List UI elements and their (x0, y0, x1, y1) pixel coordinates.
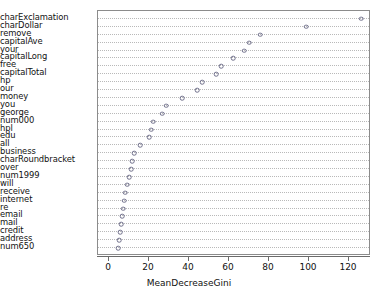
gridline-row (98, 192, 369, 193)
data-point (151, 119, 156, 124)
data-point (231, 56, 236, 61)
data-point (147, 135, 152, 140)
data-point (122, 198, 127, 203)
gridline-row (98, 42, 369, 43)
gridline-row (98, 97, 369, 98)
data-point (219, 64, 224, 69)
data-point (120, 214, 125, 219)
x-tick-mark (228, 256, 229, 261)
gridline-row (98, 105, 369, 106)
data-point (118, 230, 123, 235)
data-point (132, 151, 137, 156)
gridline-row (98, 81, 369, 82)
x-tick-label: 100 (299, 262, 316, 273)
gridline-row (98, 18, 369, 19)
data-point (160, 111, 165, 116)
variable-importance-dotchart: charExclamationcharDollarremovecapitalAv… (0, 0, 378, 300)
gridline-row (98, 26, 369, 27)
data-point (130, 159, 135, 164)
gridline-row (98, 121, 369, 122)
x-tick-label: 20 (142, 262, 153, 273)
gridline-row (98, 184, 369, 185)
gridline-row (98, 160, 369, 161)
category-label: num650 (0, 242, 95, 251)
x-tick-mark (268, 256, 269, 261)
gridline-row (98, 247, 369, 248)
data-point (149, 127, 154, 132)
x-tick-mark (348, 256, 349, 261)
x-tick-mark (308, 256, 309, 261)
data-point (195, 88, 200, 93)
gridline-row (98, 176, 369, 177)
data-point (129, 167, 134, 172)
gridline-row (98, 215, 369, 216)
x-tick-label: 60 (222, 262, 233, 273)
x-tick-mark (148, 256, 149, 261)
x-tick-label: 120 (339, 262, 356, 273)
gridline-row (98, 231, 369, 232)
gridline-row (98, 129, 369, 130)
gridline-row (98, 34, 369, 35)
data-point (138, 143, 143, 148)
data-point (247, 40, 252, 45)
gridline-row (98, 113, 369, 114)
data-point (164, 104, 169, 109)
plot-area (97, 10, 370, 255)
x-axis-line (97, 256, 370, 257)
data-point (127, 175, 132, 180)
x-tick-label: 80 (262, 262, 273, 273)
gridline-row (98, 168, 369, 169)
data-point (242, 48, 247, 53)
gridline-row (98, 200, 369, 201)
gridline-row (98, 208, 369, 209)
x-tick-label: 40 (182, 262, 193, 273)
x-axis-title: MeanDecreaseGini (0, 278, 378, 288)
data-point (119, 222, 124, 227)
gridline-row (98, 65, 369, 66)
gridline-row (98, 223, 369, 224)
gridline-row (98, 136, 369, 137)
data-point (200, 80, 205, 85)
gridline-row (98, 50, 369, 51)
data-point (125, 183, 130, 188)
data-point (123, 190, 128, 195)
x-tick-mark (108, 256, 109, 261)
gridline-row (98, 239, 369, 240)
data-point (258, 32, 263, 37)
data-point (214, 72, 219, 77)
x-tick-label: 0 (105, 262, 111, 273)
gridline-row (98, 152, 369, 153)
data-point (116, 246, 121, 251)
x-tick-mark (188, 256, 189, 261)
category-label-column: charExclamationcharDollarremovecapitalAv… (0, 10, 95, 255)
data-point (180, 96, 185, 101)
data-point (359, 17, 364, 22)
data-point (117, 238, 122, 243)
gridline-row (98, 89, 369, 90)
data-point (121, 206, 126, 211)
data-point (304, 25, 309, 30)
gridline-row (98, 73, 369, 74)
